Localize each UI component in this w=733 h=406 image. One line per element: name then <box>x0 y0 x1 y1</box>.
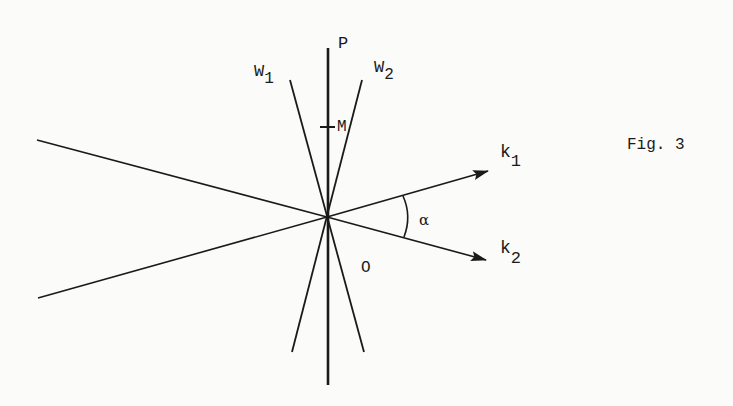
label-k2: k2 <box>500 238 521 268</box>
left-lower-line <box>38 217 327 298</box>
left-upper-line <box>37 140 327 217</box>
label-p: P <box>338 34 348 53</box>
label-m: M <box>337 118 347 136</box>
label-w1: W1 <box>254 62 274 88</box>
figure-canvas: P M O W1 W2 k1 k2 α Fig. 3 <box>0 0 733 406</box>
label-k1: k1 <box>500 142 521 171</box>
figure-caption: Fig. 3 <box>627 136 685 154</box>
k2-arrow <box>327 217 486 260</box>
label-alpha: α <box>419 211 429 229</box>
alpha-arc <box>403 196 408 237</box>
label-o: O <box>361 259 371 277</box>
label-w2: W2 <box>374 58 394 84</box>
